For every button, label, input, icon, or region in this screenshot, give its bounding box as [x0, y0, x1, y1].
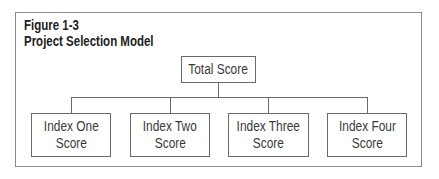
index-two-score-node: Index Two Score [130, 113, 210, 157]
connector-index-two [170, 97, 171, 113]
index-four-score-node: Index Four Score [327, 113, 407, 157]
node-label-line2: Score [253, 135, 284, 152]
figure-title: Project Selection Model [24, 33, 154, 49]
connector-index-three [268, 97, 269, 113]
node-label-line2: Score [55, 135, 86, 152]
figure-number: Figure 1-3 [24, 17, 79, 33]
horizontal-connector [71, 97, 368, 98]
index-three-score-node: Index Three Score [228, 113, 309, 157]
connector-index-one [71, 97, 72, 113]
node-label-line2: Score [154, 135, 185, 152]
node-label-line1: Index Two [143, 118, 197, 135]
node-label-line1: Index Four [339, 118, 396, 135]
total-score-label: Total Score [189, 61, 249, 78]
connector-index-four [367, 97, 368, 113]
node-label-line1: Index One [44, 118, 99, 135]
node-label-line2: Score [351, 135, 382, 152]
index-one-score-node: Index One Score [31, 113, 111, 157]
node-label-line1: Index Three [237, 118, 300, 135]
root-connector [218, 83, 219, 97]
total-score-node: Total Score [181, 56, 256, 83]
